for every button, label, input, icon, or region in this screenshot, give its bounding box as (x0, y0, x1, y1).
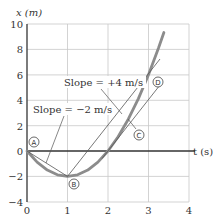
chord-a-b (27, 151, 68, 176)
svg-text:0: 0 (24, 205, 30, 216)
point-b-marker: B (69, 179, 79, 189)
svg-text:C: C (137, 132, 142, 140)
point-a-marker: A (29, 137, 39, 147)
svg-text:1: 1 (64, 205, 70, 216)
svg-text:6: 6 (17, 70, 23, 81)
svg-text:−4: −4 (8, 197, 23, 208)
slope-neg-label: Slope = −2 m/s (33, 104, 112, 115)
svg-text:2: 2 (17, 121, 23, 132)
point-c-marker: C (134, 130, 144, 140)
svg-text:B: B (72, 181, 77, 189)
svg-text:10: 10 (10, 19, 23, 30)
svg-text:−2: −2 (8, 171, 23, 182)
svg-text:0: 0 (17, 146, 23, 157)
svg-text:D: D (155, 79, 160, 87)
leader-slope-neg (46, 116, 64, 163)
y-axis-title: x (m) (16, 7, 42, 18)
position-time-graph: 10 8 6 4 2 0 −2 −4 0 1 2 3 4 x (m) t (s)… (0, 0, 217, 224)
svg-text:2: 2 (105, 205, 111, 216)
slope-pos-label: Slope = +4 m/s (64, 77, 143, 88)
x-axis-title: t (s) (193, 146, 213, 157)
point-d-marker: D (153, 77, 163, 87)
svg-text:4: 4 (17, 95, 23, 106)
svg-text:A: A (32, 139, 37, 147)
svg-text:3: 3 (145, 205, 151, 216)
x-tick-labels: 0 1 2 3 4 (24, 205, 192, 216)
svg-text:8: 8 (17, 44, 23, 55)
y-tick-labels: 10 8 6 4 2 0 −2 −4 (8, 19, 23, 208)
svg-text:4: 4 (186, 205, 192, 216)
